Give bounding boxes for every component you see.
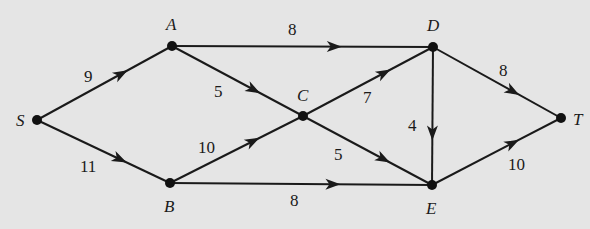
edge-line	[172, 46, 433, 47]
node-s	[32, 115, 42, 125]
edge-capacity-label: 4	[408, 116, 417, 135]
nodes-layer	[32, 41, 566, 190]
edge-line	[433, 47, 561, 118]
edge-capacity-label: 7	[363, 88, 372, 107]
node-d	[428, 42, 438, 52]
node-label-a: A	[165, 15, 177, 34]
node-e	[427, 180, 437, 190]
edge-capacity-label: 11	[80, 157, 96, 176]
arrowhead-icon	[375, 65, 393, 82]
edge-b-e	[170, 179, 432, 190]
edge-line	[172, 46, 303, 116]
edge-capacity-label: 8	[290, 191, 299, 210]
edge-s-a	[37, 46, 172, 120]
node-label-s: S	[16, 111, 25, 130]
edge-line	[37, 46, 172, 120]
edge-capacity-label: 8	[288, 20, 297, 39]
edge-a-d	[172, 41, 433, 52]
edge-capacity-label: 10	[508, 155, 525, 174]
edge-line	[37, 120, 170, 183]
edge-capacity-label: 5	[214, 82, 223, 101]
node-label-t: T	[573, 110, 584, 129]
node-c	[298, 111, 308, 121]
node-label-d: D	[426, 16, 440, 35]
edge-capacity-label: 9	[84, 67, 93, 86]
node-t	[556, 113, 566, 123]
network-flow-diagram: 91185108754810 SABCDET	[0, 0, 590, 229]
edge-line	[432, 47, 433, 185]
edge-b-c	[170, 116, 303, 183]
edge-capacity-label: 10	[198, 138, 215, 157]
arrowhead-icon	[111, 151, 129, 167]
edge-e-t	[432, 118, 561, 185]
node-label-c: C	[297, 86, 309, 105]
edge-a-c	[172, 46, 303, 116]
edge-line	[170, 116, 303, 183]
edge-d-e	[427, 47, 438, 185]
edge-capacity-label: 8	[499, 61, 508, 80]
node-label-e: E	[425, 199, 437, 218]
node-label-b: B	[164, 197, 175, 216]
arrowhead-icon	[244, 81, 262, 98]
arrowhead-icon	[374, 151, 392, 168]
graph-svg: 91185108754810 SABCDET	[0, 0, 590, 229]
arrowhead-icon	[503, 135, 521, 152]
arrowhead-icon	[244, 133, 262, 150]
node-b	[165, 178, 175, 188]
arrowhead-icon	[112, 65, 130, 82]
arrowhead-icon	[504, 83, 522, 100]
node-a	[167, 41, 177, 51]
edge-line	[170, 183, 432, 185]
edge-s-b	[37, 120, 170, 183]
edge-capacity-label: 5	[334, 145, 343, 164]
edge-d-t	[433, 47, 561, 118]
edge-line	[432, 118, 561, 185]
